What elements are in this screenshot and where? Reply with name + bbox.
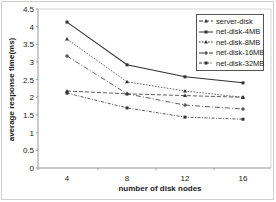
svg-text:4: 4 [30,23,35,32]
svg-text:0: 0 [30,164,35,173]
legend-item-net-disk-16mb: net-disk-16MB [199,48,261,59]
x-axis-label: number of disk nodes [90,184,230,193]
svg-text:0.5: 0.5 [23,146,35,155]
svg-text:2: 2 [30,93,35,102]
y-axis-label: average response time(ms) [7,35,16,145]
svg-text:3.5: 3.5 [23,40,35,49]
series-server-disk [65,89,245,99]
legend-item-server-disk: server-disk [199,16,261,27]
legend: server-disk net-disk-4MB net-disk-8MB ne… [196,14,264,71]
legend-swatch-icon [199,18,213,24]
svg-text:3: 3 [30,58,35,67]
legend-swatch-icon [199,39,213,45]
svg-text:4: 4 [65,174,70,183]
series-net-disk-32MB [66,92,245,121]
svg-text:8: 8 [125,174,130,183]
legend-swatch-icon [199,50,213,56]
legend-item-net-disk-4mb: net-disk-4MB [199,27,261,38]
svg-text:4.5: 4.5 [23,5,35,14]
legend-swatch-icon [199,29,213,35]
legend-item-net-disk-8mb: net-disk-8MB [199,37,261,48]
svg-text:1: 1 [30,129,35,138]
legend-swatch-icon [199,60,213,66]
svg-text:2.5: 2.5 [23,76,35,85]
svg-text:16: 16 [239,174,248,183]
svg-text:1.5: 1.5 [23,111,35,120]
legend-item-net-disk-32mb: net-disk-32MB [199,58,261,69]
svg-text:12: 12 [181,174,190,183]
